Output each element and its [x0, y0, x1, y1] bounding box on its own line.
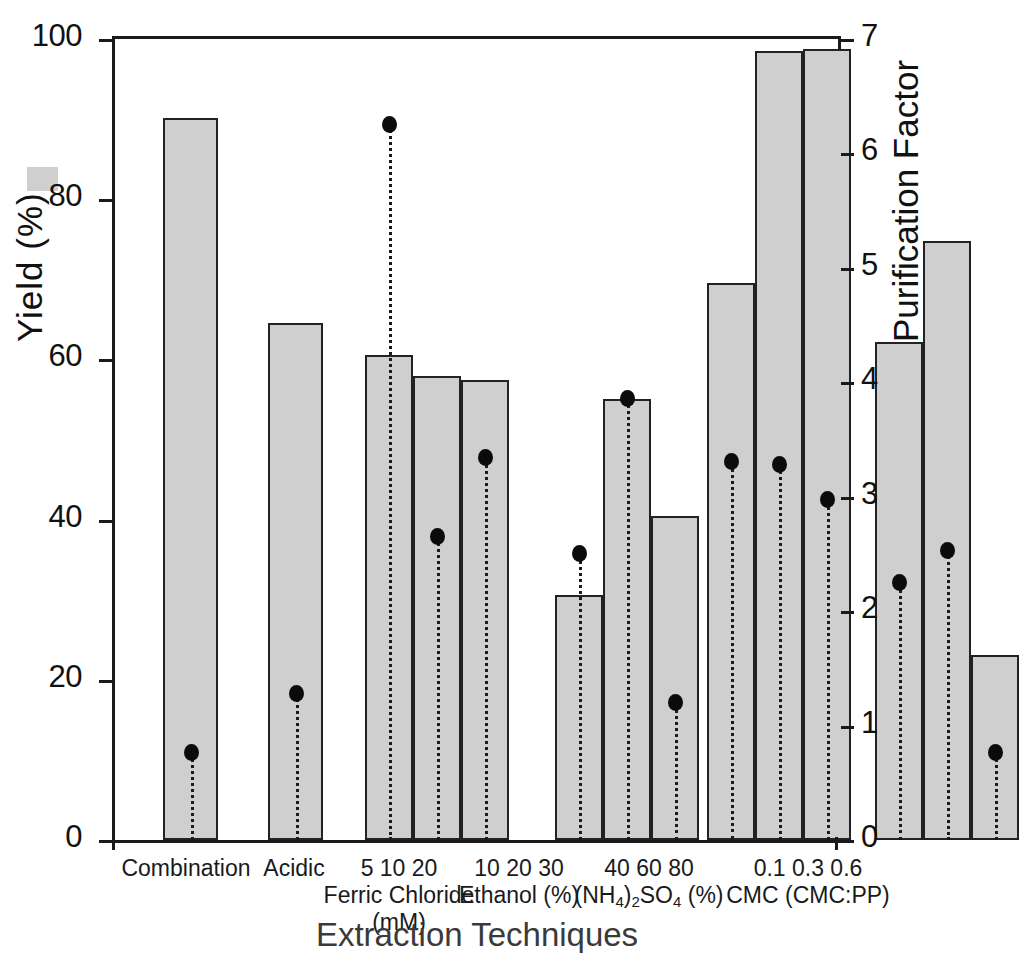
y-axis-right-tick	[841, 726, 854, 729]
y-axis-right-tick-label: 1	[861, 707, 878, 738]
x-axis-level-labels: 0.1 0.3 0.6	[693, 855, 923, 882]
y-axis-right-tick-label: 3	[861, 478, 878, 509]
marker-stem	[779, 465, 782, 840]
purification-factor-marker	[572, 545, 587, 562]
y-axis-left-tick	[99, 840, 112, 843]
marker-stem	[827, 500, 830, 840]
y-axis-left-title: Yield (%)	[10, 298, 50, 342]
marker-stem	[899, 583, 902, 840]
plot-area	[112, 36, 841, 843]
y-axis-left-tick-label: 40	[0, 501, 82, 532]
purification-factor-marker	[772, 456, 787, 473]
y-axis-right-tick-label: 2	[861, 592, 878, 623]
marker-stem	[296, 694, 299, 840]
purification-factor-marker	[430, 528, 445, 545]
y-axis-right-tick-label: 4	[861, 363, 878, 394]
marker-stem	[675, 703, 678, 840]
x-axis-group-label: 0.1 0.3 0.6CMC (CMC:PP)	[693, 855, 923, 909]
purification-factor-marker	[988, 744, 1003, 761]
marker-stem	[485, 458, 488, 840]
marker-stem	[947, 551, 950, 841]
y-axis-right-tick	[841, 268, 854, 271]
marker-stem	[437, 537, 440, 840]
purification-factor-marker	[668, 694, 683, 711]
y-axis-right-tick	[841, 497, 854, 500]
y-axis-left-tick	[99, 520, 112, 523]
purification-factor-marker	[478, 449, 493, 466]
x-axis-tick	[835, 837, 838, 850]
y-axis-left-tick-label: 20	[0, 661, 82, 692]
y-axis-right-tick-label: 7	[861, 20, 878, 51]
y-axis-left-tick	[99, 359, 112, 362]
x-axis-tick	[112, 837, 115, 850]
y-axis-left-tick	[99, 680, 112, 683]
y-axis-left-tick	[99, 39, 112, 42]
y-axis-left-tick-label: 0	[0, 821, 82, 852]
y-axis-right-tick	[841, 840, 854, 843]
bar	[163, 118, 218, 841]
y-axis-left-tick	[99, 199, 112, 202]
y-axis-right-tick-label: 0	[861, 821, 878, 852]
y-axis-left-tick-label: 60	[0, 340, 82, 371]
marker-stem	[627, 399, 630, 840]
x-axis-group-name: CMC (CMC:PP)	[693, 882, 923, 909]
y-axis-right-tick	[841, 611, 854, 614]
marker-stem	[995, 753, 998, 840]
y-axis-left-tick-label: 80	[0, 180, 82, 211]
purification-factor-marker	[940, 542, 955, 559]
y-axis-right-title: Purification Factor	[886, 298, 926, 342]
y-axis-right-tick-label: 5	[861, 249, 878, 280]
marker-stem	[191, 753, 194, 840]
marker-stem	[731, 462, 734, 840]
marker-stem	[389, 125, 392, 840]
purification-factor-marker	[289, 685, 304, 702]
purification-factor-marker	[184, 744, 199, 761]
y-axis-right-tick-label: 6	[861, 134, 878, 165]
y-axis-right-tick	[841, 153, 854, 156]
purification-factor-marker	[892, 574, 907, 591]
purification-factor-marker	[382, 116, 397, 133]
y-axis-right-tick	[841, 39, 854, 42]
x-axis-title: Extraction Techniques	[0, 916, 954, 954]
marker-stem	[579, 554, 582, 840]
y-axis-right-tick	[841, 382, 854, 385]
y-axis-left-tick-label: 100	[0, 20, 82, 51]
